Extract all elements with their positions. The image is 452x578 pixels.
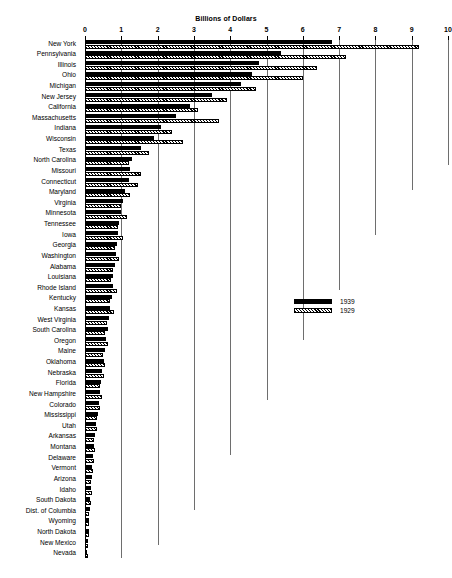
bar-1929 (85, 76, 303, 80)
bar-group (85, 252, 448, 263)
bar-1939 (85, 221, 119, 225)
category-label: Idaho (0, 486, 76, 493)
category-label: Nevada (0, 549, 76, 556)
bar-1939 (85, 125, 161, 129)
category-label: Ohio (0, 71, 76, 78)
category-label: Vermont (0, 464, 76, 471)
bar-group (85, 242, 448, 253)
bar-1929 (85, 236, 123, 240)
category-label: Kansas (0, 305, 76, 312)
bar-1939 (85, 82, 241, 86)
bar-1929 (85, 45, 419, 49)
x-tick-label-2: 2 (156, 26, 160, 33)
category-label: New Jersey (0, 93, 76, 100)
bar-1939 (85, 146, 141, 150)
bar-1929 (85, 289, 117, 293)
bar-1929 (85, 98, 227, 102)
bar-1939 (85, 550, 87, 554)
category-label: Connecticut (0, 178, 76, 185)
bar-1939 (85, 295, 112, 299)
bar-group (85, 210, 448, 221)
bar-group (85, 539, 448, 550)
category-label: New Mexico (0, 539, 76, 546)
category-label: South Carolina (0, 326, 76, 333)
category-label: Rhode Island (0, 284, 76, 291)
bar-group (85, 422, 448, 433)
bar-1939 (85, 539, 88, 543)
category-label: Maryland (0, 188, 76, 195)
category-label: Tennessee (0, 220, 76, 227)
category-label: Florida (0, 379, 76, 386)
bar-1939 (85, 157, 132, 161)
category-label: Massachusetts (0, 114, 76, 121)
category-label: Delaware (0, 454, 76, 461)
chart-legend: 19391929 (294, 299, 384, 321)
category-label: North Dakota (0, 528, 76, 535)
bar-1929 (85, 140, 183, 144)
bar-group (85, 93, 448, 104)
bar-1939 (85, 433, 95, 437)
bar-group (85, 157, 448, 168)
category-label: Washington (0, 252, 76, 259)
bar-1939 (85, 263, 115, 267)
category-label: Indiana (0, 124, 76, 131)
category-label: Mississippi (0, 411, 76, 418)
bar-1929 (85, 108, 198, 112)
bar-1929 (85, 491, 92, 495)
category-label: Wisconsin (0, 135, 76, 142)
bar-group (85, 125, 448, 136)
bar-group (85, 295, 448, 306)
bar-1929 (85, 183, 138, 187)
category-label: Utah (0, 422, 76, 429)
category-label: Georgia (0, 241, 76, 248)
bar-1939 (85, 51, 281, 55)
bar-1929 (85, 416, 97, 420)
legend-item: 1939 (294, 299, 384, 306)
bar-1929 (85, 459, 94, 463)
bar-group (85, 316, 448, 327)
bar-1929 (85, 448, 95, 452)
bar-1929 (85, 384, 100, 388)
bar-1939 (85, 252, 116, 256)
bar-1929 (85, 161, 129, 165)
category-label: Virginia (0, 199, 76, 206)
bar-1939 (85, 348, 105, 352)
bar-group (85, 518, 448, 529)
category-label: Kentucky (0, 294, 76, 301)
bar-1929 (85, 321, 107, 325)
category-label: Iowa (0, 231, 76, 238)
bar-1939 (85, 380, 101, 384)
bar-1939 (85, 507, 90, 511)
bar-1939 (85, 61, 259, 65)
bar-group (85, 189, 448, 200)
bar-1939 (85, 93, 212, 97)
bar-chart: Billions of Dollars 012345678910 New Yor… (0, 0, 452, 578)
y-axis-category-labels: New YorkPennsylvaniaIllinoisOhioMichigan… (0, 40, 80, 558)
bar-group (85, 337, 448, 348)
bar-1939 (85, 306, 110, 310)
bar-1939 (85, 369, 102, 373)
category-label: Alabama (0, 263, 76, 270)
chart-title: Billions of Dollars (0, 15, 452, 22)
bar-group (85, 486, 448, 497)
bar-1939 (85, 178, 129, 182)
legend-swatch-1929 (294, 308, 332, 313)
bar-1939 (85, 454, 93, 458)
x-tick-label-4: 4 (228, 26, 232, 33)
bar-1929 (85, 87, 256, 91)
category-label: Arizona (0, 475, 76, 482)
category-label: Nebraska (0, 369, 76, 376)
bar-1939 (85, 444, 94, 448)
bar-group (85, 114, 448, 125)
bar-group (85, 167, 448, 178)
bar-group (85, 465, 448, 476)
bar-group (85, 284, 448, 295)
bar-group (85, 263, 448, 274)
bar-group (85, 72, 448, 83)
bar-1929 (85, 533, 89, 537)
bar-1939 (85, 465, 92, 469)
bar-group (85, 306, 448, 317)
x-tick-label-9: 9 (410, 26, 414, 33)
x-tick-label-5: 5 (265, 26, 269, 33)
bar-1929 (85, 522, 89, 526)
